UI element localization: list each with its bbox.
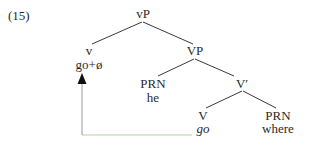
arrowhead-up-icon xyxy=(78,73,87,84)
branch-Vbar-V xyxy=(206,91,242,108)
example-number: (15) xyxy=(8,9,30,23)
word-he: he xyxy=(147,91,159,105)
word-go-null: go+ø xyxy=(76,58,103,72)
node-vP: vP xyxy=(136,7,150,21)
branch-Vbar-PRN xyxy=(243,91,276,108)
branch-vP-VP xyxy=(143,22,193,44)
node-v: v xyxy=(86,44,93,58)
branch-VP-PRN xyxy=(158,59,194,76)
node-VP: VP xyxy=(187,44,204,58)
movement-arrow xyxy=(78,73,193,135)
node-Vbar: V′ xyxy=(236,77,248,91)
branch-VP-Vbar xyxy=(195,59,234,76)
word-where: where xyxy=(262,122,294,136)
word-go-trace: go xyxy=(197,122,210,136)
branch-vP-v xyxy=(92,22,142,44)
node-PRN-subject: PRN xyxy=(140,77,165,91)
